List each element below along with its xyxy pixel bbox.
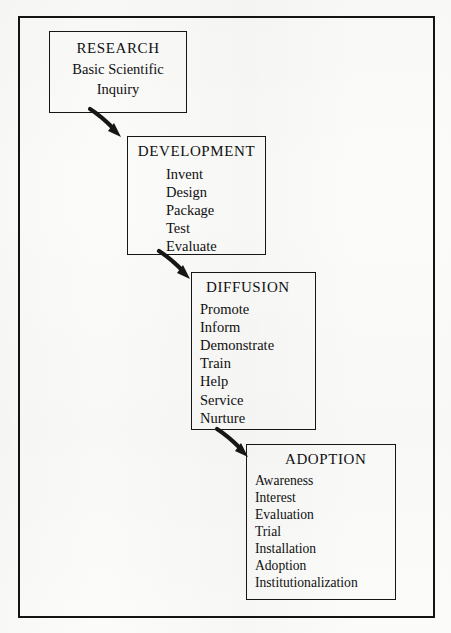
stage-items-diffusion: Promote Inform Demonstrate Train Help Se…	[192, 300, 315, 427]
list-item: Design	[166, 183, 265, 201]
stage-box-development[interactable]: DEVELOPMENT Invent Design Package Test E…	[127, 136, 266, 255]
stage-title-development: DEVELOPMENT	[128, 143, 265, 161]
list-item: Awareness	[255, 472, 395, 489]
list-item: Institutionalization	[255, 574, 395, 591]
list-item: Test	[166, 219, 265, 237]
list-item: Train	[200, 354, 315, 372]
list-item: Nurture	[200, 409, 315, 427]
stage-box-research[interactable]: RESEARCH Basic Scientific Inquiry	[49, 31, 187, 113]
stage-items-adoption: Awareness Interest Evaluation Trial Inst…	[247, 472, 395, 591]
list-item: Trial	[255, 523, 395, 540]
stage-subtitle-research-line-2: Inquiry	[50, 81, 186, 99]
stage-title-research: RESEARCH	[50, 40, 186, 58]
stage-title-adoption: ADOPTION	[247, 451, 395, 469]
list-item: Invent	[166, 165, 265, 183]
list-item: Promote	[200, 300, 315, 318]
list-item: Evaluation	[255, 506, 395, 523]
list-item: Inform	[200, 318, 315, 336]
stage-subtitle-research-line-1: Basic Scientific	[50, 61, 186, 79]
list-item: Evaluate	[166, 237, 265, 255]
list-item: Help	[200, 372, 315, 390]
stage-box-diffusion[interactable]: DIFFUSION Promote Inform Demonstrate Tra…	[191, 272, 316, 430]
diagram-page: RESEARCH Basic Scientific Inquiry DEVELO…	[0, 0, 451, 633]
list-item: Service	[200, 391, 315, 409]
stage-title-diffusion: DIFFUSION	[192, 279, 315, 297]
stage-box-adoption[interactable]: ADOPTION Awareness Interest Evaluation T…	[246, 444, 396, 600]
stage-items-development: Invent Design Package Test Evaluate	[128, 165, 265, 256]
list-item: Interest	[255, 489, 395, 506]
list-item: Adoption	[255, 557, 395, 574]
list-item: Installation	[255, 540, 395, 557]
list-item: Package	[166, 201, 265, 219]
list-item: Demonstrate	[200, 336, 315, 354]
